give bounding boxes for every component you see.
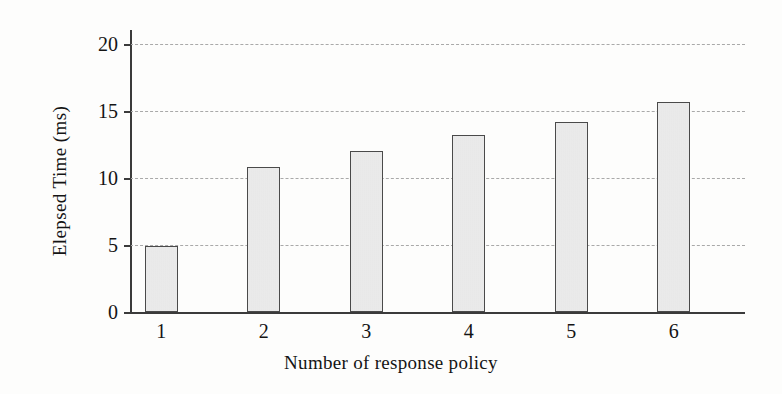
x-axis-title: Number of response policy xyxy=(0,352,782,374)
y-tick-label: 10 xyxy=(98,167,118,190)
y-tick-mark xyxy=(124,178,131,180)
y-tick-label: 0 xyxy=(108,301,118,324)
bar xyxy=(145,246,178,312)
x-tick-label: 2 xyxy=(234,320,294,343)
y-axis-title: Elepsed Time (ms) xyxy=(49,51,71,311)
plot-area: 05101520 123456 xyxy=(130,44,745,312)
y-axis-line xyxy=(130,30,132,312)
y-tick-mark xyxy=(124,111,131,113)
bar-chart-figure: Elepsed Time (ms) 05101520 123456 Number… xyxy=(0,0,782,394)
gridline xyxy=(130,178,745,179)
y-tick-mark xyxy=(124,312,131,314)
y-tick-label: 5 xyxy=(108,234,118,257)
y-tick-label: 15 xyxy=(98,100,118,123)
y-tick-mark xyxy=(124,44,131,46)
x-tick-label: 6 xyxy=(644,320,704,343)
bar xyxy=(555,122,588,312)
y-tick-label: 20 xyxy=(98,33,118,56)
bar xyxy=(657,102,690,312)
bar xyxy=(452,135,485,312)
x-axis-line xyxy=(130,312,745,314)
gridline xyxy=(130,44,745,45)
gridline xyxy=(130,111,745,112)
gridline xyxy=(130,245,745,246)
bar xyxy=(247,167,280,312)
x-tick-label: 1 xyxy=(131,320,191,343)
x-tick-label: 4 xyxy=(439,320,499,343)
x-tick-label: 5 xyxy=(541,320,601,343)
x-tick-label: 3 xyxy=(336,320,396,343)
bar xyxy=(350,151,383,312)
y-tick-mark xyxy=(124,245,131,247)
